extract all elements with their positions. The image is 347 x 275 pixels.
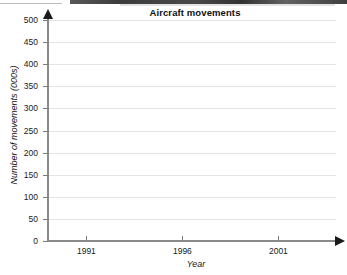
- gridline: [48, 197, 336, 198]
- gridline: [48, 64, 336, 65]
- gridline: [48, 153, 336, 154]
- y-axis-tick-label: 50: [10, 214, 38, 224]
- gridline: [48, 108, 336, 109]
- y-axis-arrowhead-icon: [43, 9, 53, 19]
- x-axis-tick: [182, 236, 183, 241]
- y-axis-title: Number of movements (000s): [9, 45, 19, 205]
- y-axis-tick-label: 500: [10, 15, 38, 25]
- y-axis-tick: [43, 153, 48, 154]
- x-axis-tick-label: 1996: [162, 246, 202, 256]
- gridline: [48, 86, 336, 87]
- chart-title: Aircraft movements: [100, 7, 290, 18]
- gridline: [48, 42, 336, 43]
- y-axis-tick: [43, 241, 48, 242]
- y-axis-tick: [43, 20, 48, 21]
- gridline: [48, 131, 336, 132]
- y-axis-tick: [43, 219, 48, 220]
- x-axis-line: [48, 240, 336, 242]
- y-axis-tick-label: 0: [10, 236, 38, 246]
- y-axis-tick: [43, 86, 48, 87]
- plot-area: [48, 20, 336, 241]
- y-axis-tick: [43, 131, 48, 132]
- gridline: [48, 20, 336, 21]
- y-axis-tick: [43, 175, 48, 176]
- chart-screenshot: Aircraft movements 050100150200250300350…: [0, 0, 347, 275]
- x-axis-arrowhead-icon: [335, 236, 345, 246]
- x-axis-title: Year: [156, 259, 236, 269]
- scan-artifact-left-line: [0, 3, 62, 4]
- y-axis-tick: [43, 42, 48, 43]
- scan-artifact-top-band-soft: [120, 4, 335, 6]
- x-axis-tick: [86, 236, 87, 241]
- y-axis-tick: [43, 64, 48, 65]
- x-axis-tick-label: 2001: [258, 246, 298, 256]
- x-axis-tick-label: 1991: [66, 246, 106, 256]
- x-axis-tick: [278, 236, 279, 241]
- y-axis-tick: [43, 197, 48, 198]
- gridline: [48, 175, 336, 176]
- y-axis-tick: [43, 108, 48, 109]
- gridline: [48, 219, 336, 220]
